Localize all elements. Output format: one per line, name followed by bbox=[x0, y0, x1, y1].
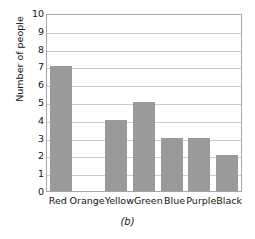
bar bbox=[105, 120, 127, 191]
y-tick-label: 0 bbox=[22, 186, 44, 198]
x-axis-tick-labels: RedOrangeYellowGreenBluePurpleBlack bbox=[46, 194, 242, 208]
y-tick-label: 7 bbox=[22, 61, 44, 73]
y-tick-label: 6 bbox=[22, 79, 44, 91]
y-tick-label: 5 bbox=[22, 97, 44, 109]
bar bbox=[50, 66, 72, 191]
bar-series bbox=[47, 15, 241, 191]
x-tick-label: Blue bbox=[163, 194, 187, 208]
bar-slot bbox=[158, 15, 186, 191]
y-tick-label: 1 bbox=[22, 168, 44, 180]
y-tick-label: 2 bbox=[22, 150, 44, 162]
bar-slot bbox=[186, 15, 214, 191]
y-tick-label: 8 bbox=[22, 44, 44, 56]
bar-chart-figure: Number of people 109876543210 RedOrangeY… bbox=[0, 0, 255, 239]
bar bbox=[188, 138, 210, 191]
bar-slot bbox=[213, 15, 241, 191]
y-tick-label: 3 bbox=[22, 133, 44, 145]
x-tick-label: Black bbox=[216, 194, 242, 208]
plot-area bbox=[46, 14, 242, 192]
x-tick-label: Yellow bbox=[105, 194, 134, 208]
bar bbox=[216, 155, 238, 191]
x-tick-label: Purple bbox=[186, 194, 216, 208]
x-tick-label: Orange bbox=[70, 194, 105, 208]
bar-slot bbox=[102, 15, 130, 191]
bar-slot bbox=[47, 15, 75, 191]
bar bbox=[161, 138, 183, 191]
bar-slot bbox=[75, 15, 103, 191]
y-tick-label: 10 bbox=[22, 8, 44, 20]
x-tick-label: Red bbox=[46, 194, 70, 208]
x-tick-label: Green bbox=[134, 194, 163, 208]
y-axis-tick-labels: 109876543210 bbox=[22, 8, 44, 198]
y-tick-label: 4 bbox=[22, 115, 44, 127]
bar-slot bbox=[130, 15, 158, 191]
figure-caption: (b) bbox=[0, 216, 255, 227]
bar bbox=[133, 102, 155, 191]
y-tick-label: 9 bbox=[22, 26, 44, 38]
